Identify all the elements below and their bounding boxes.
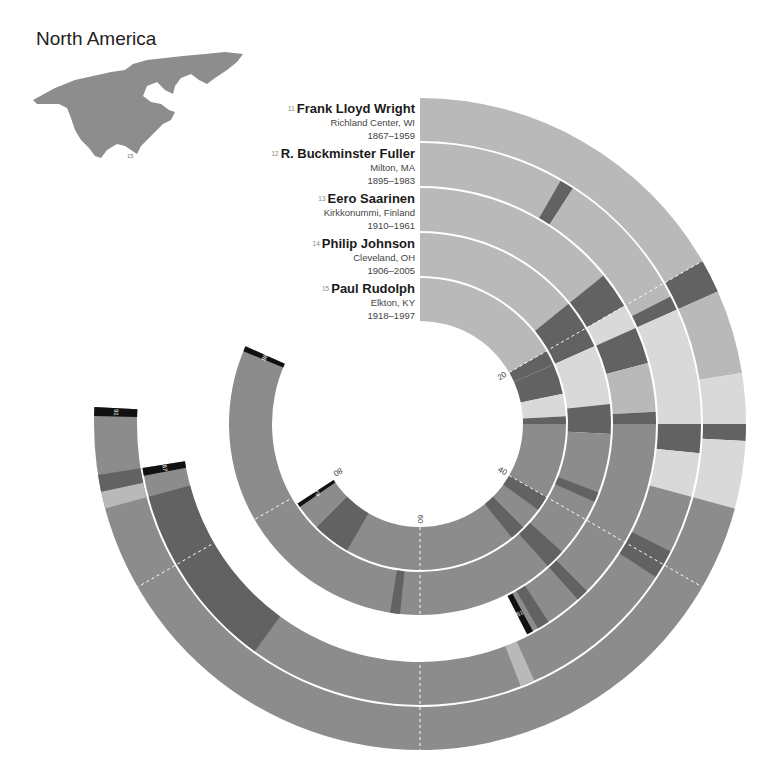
architect-name-text: R. Buckminster Fuller	[281, 146, 415, 161]
architect-number: 12	[271, 150, 278, 157]
life-years: 1895–1983	[271, 174, 415, 187]
architect-name: 13Eero Saarinen	[318, 191, 415, 206]
segment-light	[700, 373, 746, 424]
tick-label: 20	[496, 370, 509, 383]
architect-name: 12R. Buckminster Fuller	[271, 146, 415, 161]
tick-label: 60	[416, 515, 425, 524]
tick-label: 80	[331, 466, 344, 479]
architect-number: 14	[313, 240, 320, 247]
legend-entry: 11Frank Lloyd Wright Richland Center, WI…	[288, 101, 415, 142]
architect-name: 11Frank Lloyd Wright	[288, 101, 415, 116]
tick-label: 40	[496, 465, 509, 478]
legend-entry: 14Philip Johnson Cleveland, OH1906–2005	[313, 236, 415, 277]
birthplace: Cleveland, OH	[313, 251, 415, 264]
architect-number: 13	[318, 195, 325, 202]
age-at-death-label: 91	[113, 409, 119, 417]
life-years: 1906–2005	[313, 264, 415, 277]
architect-number: 15	[322, 285, 329, 292]
segment-dark	[703, 424, 746, 441]
segment-dark	[657, 424, 701, 453]
architect-name: 15Paul Rudolph	[322, 281, 415, 296]
architect-name-text: Eero Saarinen	[328, 191, 415, 206]
birthplace: Milton, MA	[271, 161, 415, 174]
architect-name-text: Paul Rudolph	[331, 281, 415, 296]
legend-entry: 12R. Buckminster Fuller Milton, MA1895–1…	[271, 146, 415, 187]
birthplace: Richland Center, WI	[288, 116, 415, 129]
legend-entry: 13Eero Saarinen Kirkkonummi, Finland1910…	[318, 191, 415, 232]
architect-name-text: Philip Johnson	[322, 236, 415, 251]
segment-light	[693, 439, 745, 509]
segment-dark	[567, 404, 611, 434]
legend-entry: 15Paul Rudolph Elkton, KY1918–1997	[322, 281, 415, 322]
birthplace: Elkton, KY	[322, 296, 415, 309]
life-years: 1918–1997	[322, 309, 415, 322]
architect-name-text: Frank Lloyd Wright	[297, 101, 415, 116]
birthplace: Kirkkonummi, Finland	[318, 206, 415, 219]
life-years: 1910–1961	[318, 219, 415, 232]
architect-number: 11	[288, 105, 295, 112]
life-years: 1867–1959	[288, 129, 415, 142]
architect-name: 14Philip Johnson	[313, 236, 415, 251]
